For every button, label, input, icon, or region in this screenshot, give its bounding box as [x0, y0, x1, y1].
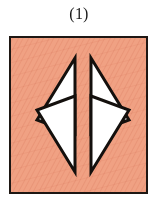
pattern-panel: [9, 36, 148, 194]
figure-caption: (1): [0, 4, 158, 24]
figure-root: (1): [0, 0, 158, 208]
pattern-svg: [9, 36, 148, 194]
